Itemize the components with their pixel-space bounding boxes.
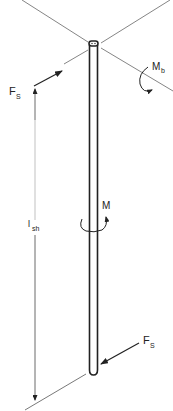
rotation-arrow-icon — [81, 217, 107, 232]
shaft-end-cap — [89, 41, 98, 46]
moment-label: M — [152, 61, 160, 72]
length-subscript: sh — [32, 225, 40, 232]
axis-line-b-lower — [64, 50, 88, 64]
force-label-top: F — [9, 85, 16, 97]
bending-moment: M b — [140, 61, 165, 91]
shear-force-top: F S — [9, 71, 62, 100]
shear-force-bottom: F S — [101, 334, 155, 364]
moment-subscript: b — [161, 67, 165, 74]
torsion-label: M — [102, 200, 110, 211]
axis-line-a-upper — [22, 0, 88, 42]
force-subscript-bottom: S — [150, 342, 155, 349]
length-dimension: l sh — [28, 89, 40, 400]
force-subscript-top: S — [16, 93, 21, 100]
axis-line-b-upper — [101, 0, 170, 43]
torsion-moment: M — [81, 200, 111, 232]
shaft — [89, 41, 98, 375]
shaft-diagram: F S M b M l sh F S — [0, 0, 173, 411]
length-label: l — [28, 219, 30, 229]
arrow-icon — [34, 71, 62, 86]
base-reference-line — [25, 374, 86, 410]
curved-arrow-icon — [140, 67, 152, 91]
force-label-bottom: F — [143, 334, 150, 346]
arrow-icon — [101, 343, 139, 364]
